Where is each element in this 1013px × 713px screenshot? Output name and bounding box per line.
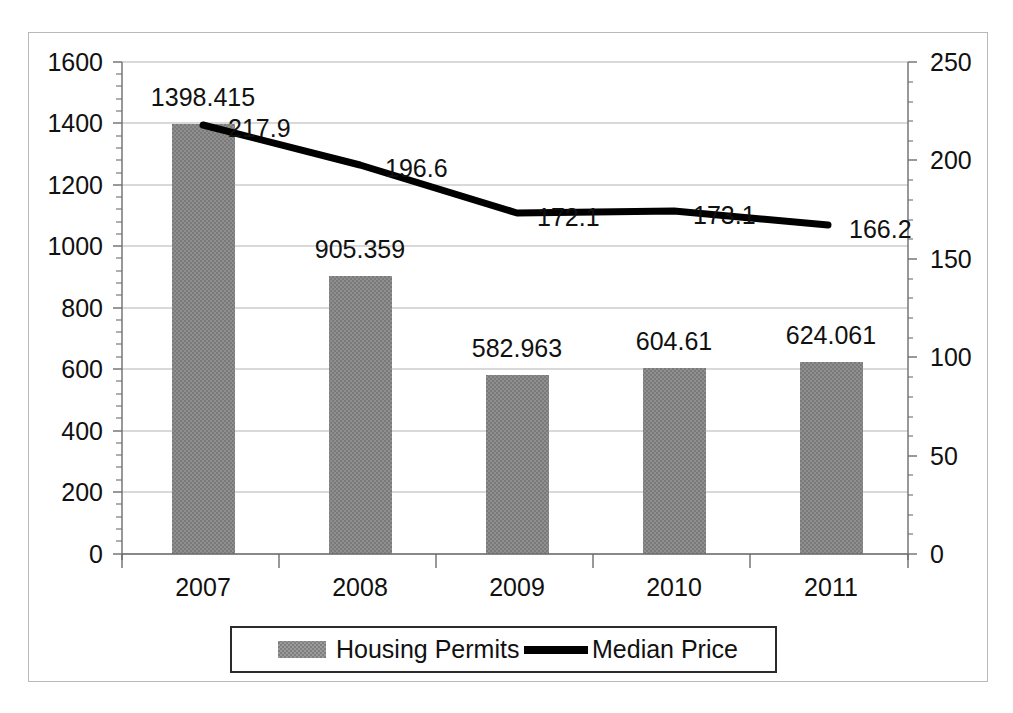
right-axis-tick-100: 100 (930, 343, 972, 371)
bar-label-2009: 582.963 (472, 334, 562, 362)
bar-2010[interactable] (643, 368, 706, 554)
chart-canvas: 1600 1400 1200 1000 800 600 400 200 0 (0, 0, 1013, 713)
bar-label-2007: 1398.415 (151, 83, 255, 111)
category-tick-2011: 2011 (804, 573, 858, 601)
bar-2009[interactable] (486, 375, 549, 554)
right-axis-tick-50: 50 (930, 442, 958, 470)
line-label-2007: 217.9 (228, 114, 291, 142)
legend-label-housing-permits[interactable]: Housing Permits (336, 635, 519, 663)
left-axis-tick-800: 800 (61, 294, 103, 322)
line-label-2011: 166.2 (849, 215, 912, 243)
left-axis-tick-1600: 1600 (47, 48, 103, 76)
line-label-2010: 173.1 (693, 201, 756, 229)
category-tick-2007: 2007 (175, 573, 231, 601)
bar-label-2008: 905.359 (315, 235, 405, 263)
category-tick-2009: 2009 (489, 573, 545, 601)
left-axis-tick-400: 400 (61, 417, 103, 445)
right-axis-tick-150: 150 (930, 245, 972, 273)
right-axis-tick-0: 0 (930, 540, 944, 568)
chart-legend: Housing Permits Median Price (231, 627, 776, 672)
line-label-2008: 196.6 (385, 154, 448, 182)
bar-2007[interactable] (172, 124, 235, 554)
legend-swatch-housing-permits (278, 641, 326, 658)
category-tick-2008: 2008 (332, 573, 388, 601)
left-axis-tick-1000: 1000 (47, 232, 103, 260)
line-label-2009: 172.1 (537, 203, 600, 231)
category-axis: 2007 2008 2009 2010 2011 (122, 554, 908, 601)
left-axis-tick-0: 0 (89, 540, 103, 568)
bar-2011[interactable] (800, 362, 863, 554)
chart-container: 1600 1400 1200 1000 800 600 400 200 0 (0, 0, 1013, 713)
left-axis-tick-1200: 1200 (47, 171, 103, 199)
bar-2008[interactable] (329, 276, 392, 554)
category-tick-2010: 2010 (646, 573, 702, 601)
bar-label-2011: 624.061 (786, 321, 876, 349)
left-axis-tick-200: 200 (61, 478, 103, 506)
right-axis: 250 200 150 100 50 0 (908, 48, 972, 568)
right-axis-tick-250: 250 (930, 48, 972, 76)
bar-label-2010: 604.61 (636, 327, 712, 355)
left-axis-tick-600: 600 (61, 355, 103, 383)
left-axis: 1600 1400 1200 1000 800 600 400 200 0 (47, 48, 122, 568)
left-axis-tick-1400: 1400 (47, 109, 103, 137)
right-axis-tick-200: 200 (930, 146, 972, 174)
legend-label-median-price[interactable]: Median Price (592, 635, 738, 663)
